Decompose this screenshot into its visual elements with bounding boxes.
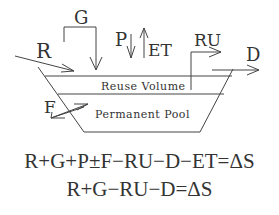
evapotranspiration-arrow-icon xyxy=(140,28,148,58)
groundwater-arrow-icon xyxy=(64,27,102,70)
pond-outline xyxy=(38,67,233,132)
label-f: F xyxy=(44,97,56,117)
simplified-balance-equation: R+G−RU−D=ΔS xyxy=(0,177,279,202)
label-r: R xyxy=(36,39,52,63)
reuse-volume-label: Reuse Volume xyxy=(101,80,186,93)
permanent-pool-label: Permanent Pool xyxy=(95,108,190,121)
full-balance-equation: R+G+P±F−RU−D−ET=ΔS xyxy=(0,149,279,174)
label-d: D xyxy=(246,44,260,65)
pond-schematic: R G P ET RU D F Reuse Volume Permanent P… xyxy=(0,0,279,140)
discharge-arrow-icon xyxy=(212,65,259,75)
label-g: G xyxy=(74,7,88,28)
infiltration-arrow-icon xyxy=(51,104,88,118)
reuse-withdrawal-arrow-icon xyxy=(191,47,221,90)
water-balance-diagram: R G P ET RU D F Reuse Volume Permanent P… xyxy=(0,0,279,215)
label-p: P xyxy=(115,29,127,50)
precipitation-arrow-icon xyxy=(127,34,135,58)
label-ru: RU xyxy=(194,30,221,50)
label-et: ET xyxy=(148,40,172,60)
